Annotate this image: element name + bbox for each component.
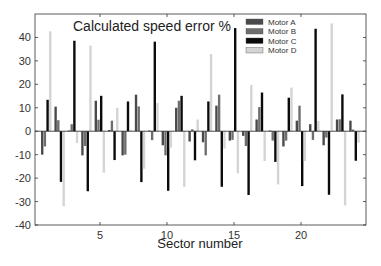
y-tick-label: 20: [19, 78, 31, 90]
bar: [113, 131, 115, 160]
x-axis-label: Sector number: [157, 236, 243, 251]
bar: [218, 95, 220, 132]
bar-chart: -40-30-20-10010203040 5101520 Calculated…: [0, 0, 381, 266]
bar: [339, 119, 341, 131]
bar: [277, 131, 279, 184]
bar: [298, 106, 300, 132]
bar: [183, 131, 185, 187]
y-tick-label: -40: [15, 219, 31, 231]
bar: [341, 94, 343, 131]
bar: [62, 131, 64, 206]
legend-label: Motor C: [268, 37, 297, 46]
bar: [188, 131, 190, 141]
bar: [312, 131, 314, 140]
bar: [261, 93, 263, 132]
bar: [95, 101, 97, 131]
x-tick-label: 20: [295, 229, 307, 241]
bar: [207, 101, 209, 131]
bar: [143, 131, 145, 169]
bar: [215, 106, 217, 132]
bar: [97, 120, 99, 131]
bar: [296, 121, 298, 132]
bar: [317, 121, 319, 131]
legend-swatch: [246, 19, 263, 25]
x-tick-label: 5: [97, 229, 103, 241]
bar: [344, 131, 346, 205]
bar: [234, 28, 236, 131]
bar: [175, 108, 177, 131]
bar: [81, 131, 83, 155]
bar: [282, 131, 284, 146]
bar: [164, 131, 166, 155]
y-tick-label: 30: [19, 55, 31, 67]
bar: [290, 88, 292, 132]
bar: [221, 131, 223, 187]
y-tick-label: 10: [19, 102, 31, 114]
bar: [210, 54, 212, 131]
bar: [194, 131, 196, 160]
bar: [247, 131, 249, 195]
legend-label: Motor B: [268, 27, 296, 36]
bar: [41, 131, 43, 154]
chart-title: Calculated speed error %: [73, 18, 231, 34]
legend-swatch: [246, 48, 263, 54]
bar: [121, 131, 123, 155]
legend-label: Motor D: [268, 46, 297, 55]
bar: [314, 29, 316, 131]
bar: [196, 120, 198, 132]
bar: [336, 120, 338, 132]
y-tick-label: 0: [25, 125, 31, 137]
bar: [272, 131, 274, 140]
bar: [170, 131, 172, 147]
bar: [258, 107, 260, 131]
bar: [349, 121, 351, 132]
bar: [87, 131, 89, 191]
bar: [180, 96, 182, 131]
bar: [100, 96, 102, 131]
legend-swatch: [246, 38, 263, 44]
bar: [245, 131, 247, 146]
bar: [151, 131, 153, 140]
bar: [138, 106, 140, 131]
bar: [274, 131, 276, 162]
bar: [140, 131, 142, 182]
bar: [309, 124, 311, 131]
bar: [223, 131, 225, 148]
bar: [49, 31, 51, 131]
bar: [328, 131, 330, 195]
bar: [60, 131, 62, 182]
legend-label: Motor A: [268, 18, 296, 27]
bar: [355, 131, 357, 161]
bar: [116, 108, 118, 131]
y-tick-label: -30: [15, 196, 31, 208]
bar: [89, 46, 91, 132]
bar: [127, 101, 129, 131]
bar: [285, 131, 287, 140]
bar: [263, 131, 265, 161]
bar: [154, 42, 156, 132]
bar: [250, 85, 252, 131]
bar: [57, 120, 59, 131]
bar: [76, 131, 78, 143]
bar: [205, 131, 207, 155]
bar: [229, 131, 231, 140]
bar: [325, 131, 327, 137]
y-tick-label: -10: [15, 149, 31, 161]
bar: [44, 131, 46, 146]
bar: [54, 107, 56, 132]
bar: [84, 131, 86, 146]
bar: [357, 131, 359, 142]
bar: [46, 100, 48, 131]
bar: [162, 131, 164, 145]
bar: [330, 23, 332, 131]
y-tick-label: 40: [19, 31, 31, 43]
bar: [167, 131, 169, 191]
bar: [301, 131, 303, 186]
bar: [178, 101, 180, 131]
bar: [202, 131, 204, 142]
bar: [242, 131, 244, 136]
bar: [135, 95, 137, 132]
bar: [237, 131, 239, 173]
bar: [288, 98, 290, 132]
bar: [156, 103, 158, 131]
